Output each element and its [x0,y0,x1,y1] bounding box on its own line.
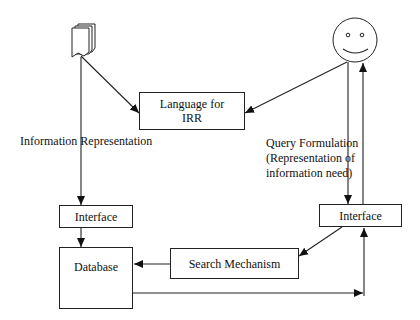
query-label-line1: Query Formulation [266,136,358,151]
database-box: Database [59,247,133,309]
smiley-face-icon [333,18,377,62]
query-label-line2: (Representation of [266,151,358,166]
document-stack-icon [72,24,95,57]
language-for-irr-box: Language for IRR [139,92,245,130]
interface-left-box: Interface [59,205,133,228]
language-box-line2: IRR [182,111,202,125]
information-representation-label: Information Representation [20,134,152,148]
query-formulation-label: Query Formulation (Representation of inf… [266,136,358,181]
interface-right-box: Interface [319,204,402,227]
query-label-line3: information need) [266,166,358,181]
search-mechanism-box: Search Mechanism [170,248,299,279]
language-box-line1: Language for [160,97,224,111]
